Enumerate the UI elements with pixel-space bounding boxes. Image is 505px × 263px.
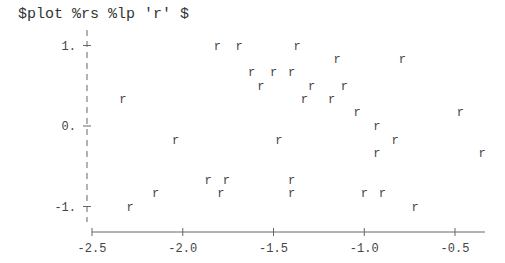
data-point-marker: r	[172, 134, 179, 148]
data-point-marker: r	[373, 120, 380, 134]
data-point-marker: r	[361, 187, 368, 201]
y-tick-label: 0.	[62, 120, 76, 134]
data-point-marker: r	[479, 147, 486, 161]
data-point-marker: r	[214, 40, 221, 54]
scatter-plot: 1.0.-1.-2.5-2.0-1.5-1.0-0.5 rrrrrrrrrrrr…	[0, 0, 505, 263]
x-tick-label: -0.5	[441, 242, 470, 256]
data-point-marker: r	[288, 66, 295, 80]
data-point-marker: r	[127, 201, 134, 215]
data-point-marker: r	[373, 147, 380, 161]
data-point-marker: r	[119, 93, 126, 107]
x-tick-label: -2.5	[78, 242, 107, 256]
data-point-marker: r	[223, 174, 230, 188]
y-tick-label: 1.	[62, 40, 76, 54]
data-point-marker: r	[333, 53, 340, 67]
data-point-marker: r	[301, 93, 308, 107]
data-points: rrrrrrrrrrrrrrrrrrrrrrrrrrrrrrrr	[119, 40, 486, 215]
data-point-marker: r	[275, 134, 282, 148]
data-point-marker: r	[392, 134, 399, 148]
data-point-marker: r	[257, 80, 264, 94]
data-point-marker: r	[457, 106, 464, 120]
data-point-marker: r	[205, 174, 212, 188]
data-point-marker: r	[217, 187, 224, 201]
data-point-marker: r	[379, 187, 386, 201]
data-point-marker: r	[248, 66, 255, 80]
axes: 1.0.-1.-2.5-2.0-1.5-1.0-0.5	[54, 30, 485, 256]
data-point-marker: r	[288, 187, 295, 201]
y-tick-label: -1.	[54, 201, 76, 215]
data-point-marker: r	[152, 187, 159, 201]
data-point-marker: r	[270, 66, 277, 80]
data-point-marker: r	[293, 40, 300, 54]
x-tick-label: -2.0	[168, 242, 197, 256]
x-tick-label: -1.0	[350, 242, 379, 256]
data-point-marker: r	[328, 93, 335, 107]
x-tick-label: -1.5	[259, 242, 288, 256]
data-point-marker: r	[308, 80, 315, 94]
data-point-marker: r	[341, 80, 348, 94]
data-point-marker: r	[399, 53, 406, 67]
data-point-marker: r	[235, 40, 242, 54]
data-point-marker: r	[353, 106, 360, 120]
data-point-marker: r	[411, 201, 418, 215]
